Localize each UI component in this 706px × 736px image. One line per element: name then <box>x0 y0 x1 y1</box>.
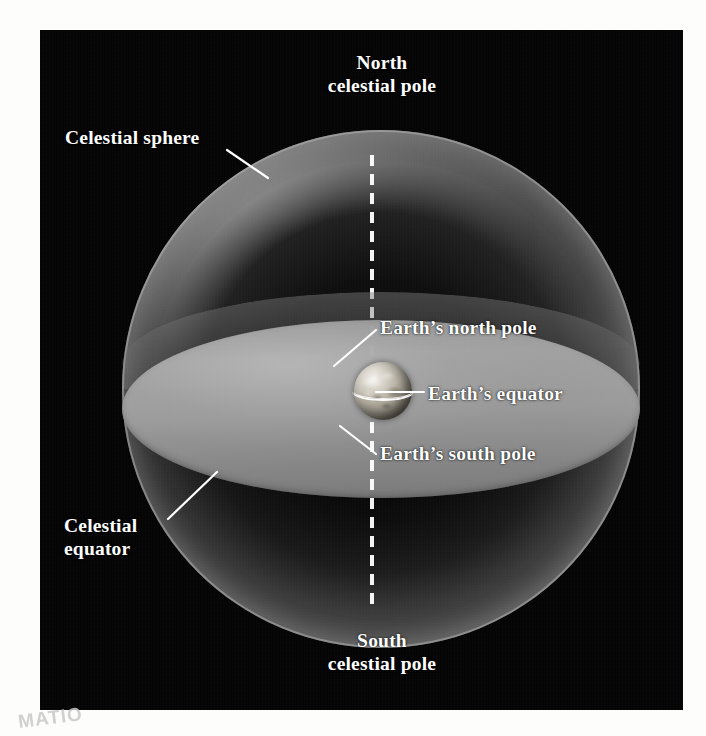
label-north-celestial-pole: North celestial pole <box>282 52 482 97</box>
label-earths-north-pole: Earth’s north pole <box>380 317 537 340</box>
diagram-panel: North celestial pole South celestial pol… <box>40 30 683 710</box>
seal-fragment: MATIO <box>8 705 158 736</box>
label-south-celestial-pole-line1: South <box>282 630 482 653</box>
label-earths-equator: Earth’s equator <box>428 383 563 406</box>
label-earths-south-pole: Earth’s south pole <box>380 443 536 466</box>
earth-equator-line-highlight <box>353 383 413 398</box>
label-celestial-equator-line1: Celestial <box>64 515 214 538</box>
label-celestial-equator-line2: equator <box>64 538 214 561</box>
label-north-celestial-pole-line1: North <box>282 52 482 75</box>
seal-fragment-text: MATIO <box>17 705 84 733</box>
label-south-celestial-pole: South celestial pole <box>282 630 482 675</box>
label-celestial-equator: Celestial equator <box>64 515 214 560</box>
label-north-celestial-pole-line2: celestial pole <box>282 75 482 98</box>
label-south-celestial-pole-line2: celestial pole <box>282 653 482 676</box>
figure-root: North celestial pole South celestial pol… <box>0 0 706 736</box>
label-celestial-sphere: Celestial sphere <box>65 127 199 150</box>
rotation-axis-lower-segment <box>370 422 374 609</box>
